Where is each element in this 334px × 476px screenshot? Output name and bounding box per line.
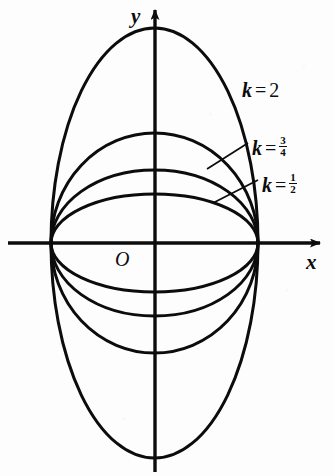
- label-k-equals-three-quarters: k = 3 4: [252, 136, 287, 159]
- k-value-2: 2: [269, 80, 279, 100]
- fraction-numerator: 3: [279, 135, 287, 146]
- equals-symbol: =: [255, 80, 266, 100]
- fraction-three-quarters: 3 4: [279, 135, 287, 158]
- equals-symbol: =: [265, 138, 276, 158]
- k-variable-symbol: k: [242, 80, 252, 100]
- y-axis-label: y: [131, 6, 140, 27]
- label-k-equals-2: k = 2: [242, 80, 279, 100]
- ellipse-family-figure: [0, 0, 334, 476]
- k-variable-symbol: k: [262, 175, 272, 195]
- fraction-numerator: 1: [289, 172, 297, 183]
- k-variable-symbol: k: [252, 138, 262, 158]
- origin-label: O: [115, 249, 129, 269]
- fraction-denominator: 2: [289, 183, 297, 195]
- label-k-equals-one-half: k = 1 2: [262, 173, 297, 196]
- fraction-denominator: 4: [279, 146, 287, 158]
- equals-symbol: =: [275, 175, 286, 195]
- fraction-one-half: 1 2: [289, 172, 297, 195]
- x-axis-label: x: [306, 252, 317, 273]
